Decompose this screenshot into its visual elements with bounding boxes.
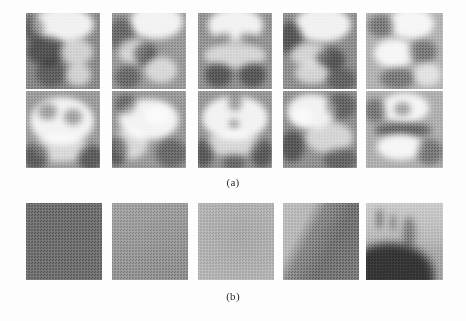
panel-a-tile-r1c3: [198, 13, 272, 89]
panel-a-column-1: [26, 13, 100, 168]
panel-a-tile-r1c2: [112, 13, 186, 89]
panel-a-tile-r1c5: [366, 13, 443, 89]
tile-artwork: [283, 203, 359, 280]
tile-artwork: [112, 203, 188, 280]
panel-a-tile-r2c1: [26, 91, 100, 168]
panel-b-tile-1: [26, 203, 102, 280]
tile-artwork: [366, 13, 443, 89]
tile-artwork: [112, 13, 186, 89]
tile-artwork: [283, 13, 357, 89]
panel-a-tile-r1c4: [283, 13, 357, 89]
panel-a-tile-r2c3: [198, 91, 272, 168]
panel-a-caption: (a): [0, 176, 466, 188]
panel-a-column-5: [366, 13, 443, 168]
panel-a-image-grid: [26, 13, 440, 168]
tile-artwork: [26, 203, 102, 280]
panel-b-tile-4: [283, 203, 359, 280]
panel-a-column-3: [198, 13, 272, 168]
tile-artwork: [366, 203, 443, 280]
panel-a-tile-r2c4: [283, 91, 357, 168]
panel-a-column-4: [283, 13, 357, 168]
tile-artwork: [112, 91, 186, 168]
panel-b-tile-5: [366, 203, 443, 280]
panel-a-tile-r2c2: [112, 91, 186, 168]
panel-a-column-2: [112, 13, 186, 168]
panel-a-tile-r1c1: [26, 13, 100, 89]
figure-root: (a) (b): [0, 0, 466, 321]
tile-artwork: [198, 91, 272, 168]
panel-b-tile-2: [112, 203, 188, 280]
panel-a-tile-r2c5: [366, 91, 443, 168]
tile-artwork: [198, 13, 272, 89]
tile-artwork: [26, 91, 100, 168]
tile-artwork: [26, 13, 100, 89]
tile-artwork: [366, 91, 443, 168]
tile-artwork: [283, 91, 357, 168]
tile-artwork: [198, 203, 274, 280]
panel-b-image-row: [26, 203, 440, 280]
panel-b-caption: (b): [0, 290, 466, 302]
panel-b-tile-3: [198, 203, 274, 280]
